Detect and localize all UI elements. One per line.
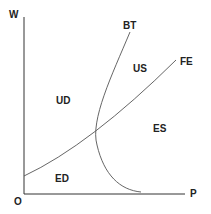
origin-label: O [14,197,22,207]
region-ud-label: UD [56,96,70,106]
bt-curve [96,32,141,192]
diagram-canvas [0,0,211,214]
bt-curve-label: BT [123,21,136,31]
region-es-label: ES [153,124,166,134]
fe-curve [24,60,176,176]
x-axis-label: P [190,189,197,199]
y-axis-label: W [9,10,18,20]
region-ed-label: ED [55,174,69,184]
fe-curve-label: FE [180,57,193,67]
region-us-label: US [133,64,147,74]
